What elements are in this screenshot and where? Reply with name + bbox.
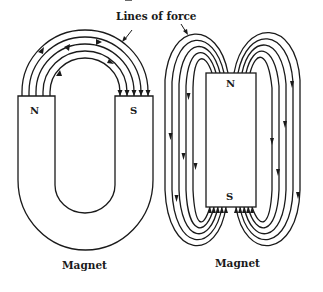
magnetic-field-diagram: N S N S <box>0 0 323 292</box>
horseshoe-magnet <box>18 96 153 250</box>
bar-magnet-label: Magnet <box>215 257 260 269</box>
bar-magnet-body <box>206 73 256 207</box>
horseshoe-body <box>18 96 153 250</box>
horseshoe-magnet-label: Magnet <box>62 259 107 271</box>
horseshoe-north-pole-label: N <box>30 105 39 116</box>
horseshoe-field-lines <box>22 30 151 96</box>
horseshoe-south-pole-label: S <box>130 105 137 116</box>
bar-south-pole-label: S <box>226 191 233 202</box>
bar-north-pole-label: N <box>226 78 235 89</box>
lines-of-force-label: Lines of force <box>116 10 197 22</box>
